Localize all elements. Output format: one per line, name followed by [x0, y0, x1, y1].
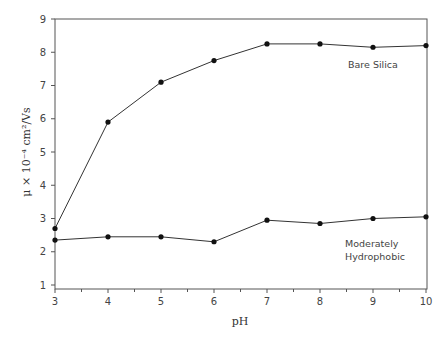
data-point-marker — [317, 41, 322, 46]
y-tick-label: 1 — [40, 280, 46, 291]
series-label-hydrophobic-line2: Hydrophobic — [345, 251, 405, 262]
x-tick-label: 9 — [370, 296, 376, 307]
data-point-marker — [370, 216, 375, 221]
x-tick-label: 7 — [264, 296, 270, 307]
x-tick-label: 5 — [158, 296, 164, 307]
data-point-marker — [158, 80, 163, 85]
data-point-marker — [158, 234, 163, 239]
y-tick-label: 3 — [40, 213, 46, 224]
y-axis-title: μ × 10⁻⁴ cm²/Vs — [20, 107, 33, 197]
data-point-marker — [264, 41, 269, 46]
data-point-marker — [317, 221, 322, 226]
x-axis-title: pH — [232, 315, 249, 328]
mobility-vs-ph-chart: 123456789 345678910 Bare Silica Moderate… — [0, 0, 448, 342]
data-point-marker — [52, 226, 57, 231]
series-line — [55, 44, 426, 229]
data-point-marker — [423, 43, 428, 48]
data-point-marker — [423, 214, 428, 219]
data-point-marker — [370, 45, 375, 50]
data-point-marker — [52, 238, 57, 243]
y-tick-label: 9 — [40, 14, 46, 25]
y-tick-label: 8 — [40, 47, 46, 58]
series-label-bare-silica: Bare Silica — [348, 59, 398, 70]
x-tick-label: 4 — [105, 296, 111, 307]
series-label-hydrophobic-line1: Moderately — [345, 238, 399, 249]
data-point-marker — [105, 119, 110, 124]
y-axis: 123456789 — [40, 14, 55, 291]
y-tick-label: 2 — [40, 246, 46, 257]
x-axis: 345678910 — [52, 289, 433, 307]
data-point-marker — [211, 58, 216, 63]
x-tick-label: 8 — [317, 296, 323, 307]
x-tick-label: 6 — [211, 296, 217, 307]
x-tick-label: 10 — [420, 296, 433, 307]
x-tick-label: 3 — [52, 296, 58, 307]
y-tick-label: 6 — [40, 113, 46, 124]
y-tick-label: 5 — [40, 147, 46, 158]
y-tick-label: 4 — [40, 180, 46, 191]
data-point-marker — [264, 218, 269, 223]
data-point-marker — [105, 234, 110, 239]
series-layer — [52, 41, 428, 244]
y-tick-label: 7 — [40, 80, 46, 91]
data-point-marker — [211, 239, 216, 244]
